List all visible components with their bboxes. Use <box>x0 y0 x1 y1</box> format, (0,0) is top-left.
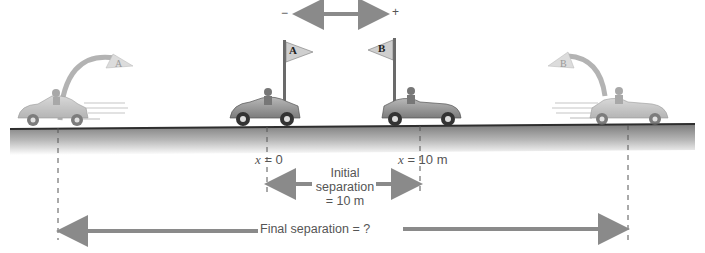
initial-separation-line2: separation <box>313 180 377 194</box>
initial-separation-line1: Initial <box>313 166 377 180</box>
position-var: x <box>398 152 404 167</box>
ground <box>10 124 695 155</box>
flag-label-a-final: A <box>115 58 122 69</box>
initial-separation-label: Initial separation = 10 m <box>313 166 377 208</box>
position-value: = 10 m <box>407 152 447 167</box>
position-label-b: x = 10 m <box>398 152 448 168</box>
final-separation-label: Final separation = ? <box>260 222 370 236</box>
position-value: = 0 <box>264 152 282 167</box>
diagram-canvas <box>0 0 705 253</box>
positive-direction-label: + <box>392 5 399 19</box>
flag-label-b-final: B <box>560 58 567 69</box>
position-label-a: x = 0 <box>255 152 283 168</box>
car-a-initial <box>230 40 313 126</box>
negative-direction-label: − <box>281 6 288 20</box>
position-var: x <box>255 152 261 167</box>
initial-separation-line3: = 10 m <box>313 194 377 208</box>
flag-label-a: A <box>289 44 297 56</box>
flag-label-b: B <box>378 42 385 54</box>
